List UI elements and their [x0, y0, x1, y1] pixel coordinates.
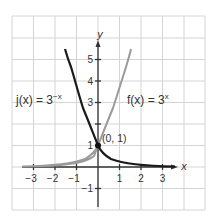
x-tick-neg2: −2 — [47, 173, 59, 184]
y-tick-4: 4 — [87, 76, 93, 87]
j-label-base: j(x) = 3 — [15, 93, 53, 107]
x-tick-3: 3 — [160, 173, 166, 184]
y-tick-5: 5 — [87, 54, 93, 65]
f-label-base: f(x) = 3 — [127, 93, 165, 107]
y-tick-1: 1 — [87, 140, 93, 151]
grid — [12, 16, 205, 210]
f-label: f(x) = 3x — [127, 92, 169, 107]
exponential-graph: −3 −2 −1 1 2 3 5 4 3 1 −1 y x (0, 1) j(x… — [0, 0, 209, 216]
x-tick-neg3: −3 — [25, 173, 37, 184]
y-tick-3: 3 — [87, 97, 93, 108]
x-tick-neg1: −1 — [68, 173, 80, 184]
j-label-exponent: −x — [53, 92, 62, 101]
x-axis-label: x — [180, 160, 187, 172]
x-tick-2: 2 — [138, 173, 144, 184]
point-label: (0, 1) — [102, 132, 127, 144]
y-tick-neg1: −1 — [82, 183, 94, 194]
f-label-exponent: x — [165, 92, 169, 101]
x-tick-1: 1 — [117, 173, 123, 184]
y-axis — [95, 40, 101, 207]
intersection-point — [95, 143, 101, 149]
